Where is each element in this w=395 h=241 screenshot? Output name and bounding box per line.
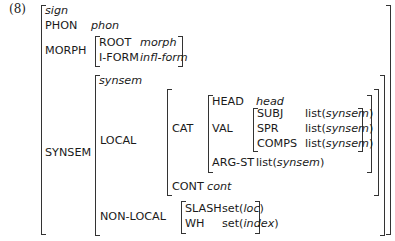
wh-attr: WH — [185, 217, 204, 230]
spr-value: list(synsem) — [305, 122, 373, 135]
cont-attr: CONT — [172, 180, 204, 193]
wh-value: set(index) — [222, 217, 279, 230]
example-number: (8) — [9, 3, 26, 16]
cat-attr: CAT — [172, 122, 193, 135]
cont-value: cont — [207, 180, 231, 193]
slash-value: set(loc) — [222, 202, 264, 215]
comps-value: list(synsem) — [305, 137, 373, 150]
nonlocal-attr: NON-LOCAL — [100, 210, 166, 223]
phon-attr: PHON — [45, 19, 77, 32]
synsem-right-bracket — [380, 75, 385, 236]
argst-attr: ARG-ST — [212, 156, 254, 169]
subj-attr: SUBJ — [257, 107, 283, 120]
head-attr: HEAD — [212, 95, 244, 108]
local-attr: LOCAL — [100, 134, 136, 147]
slash-attr: SLASH — [185, 202, 222, 215]
synsem-type: synsem — [99, 74, 142, 87]
local-right-bracket — [374, 89, 379, 196]
phon-value: phon — [91, 19, 119, 32]
morph-attr: MORPH — [45, 44, 86, 57]
iform-attr: I-FORM — [99, 51, 139, 64]
outer-left-bracket — [41, 5, 46, 235]
root-value: morph — [140, 36, 177, 49]
sign-type: sign — [45, 4, 68, 17]
synsem-attr: SYNSEM — [45, 146, 91, 159]
val-attr: VAL — [212, 122, 233, 135]
subj-value: list(synsem) — [305, 107, 373, 120]
iform-value: infl-form — [140, 51, 188, 64]
argst-value: list(synsem) — [256, 156, 324, 169]
root-attr: ROOT — [99, 36, 131, 49]
outer-right-bracket — [386, 5, 391, 235]
spr-attr: SPR — [257, 122, 279, 135]
comps-attr: COMPS — [257, 137, 297, 150]
